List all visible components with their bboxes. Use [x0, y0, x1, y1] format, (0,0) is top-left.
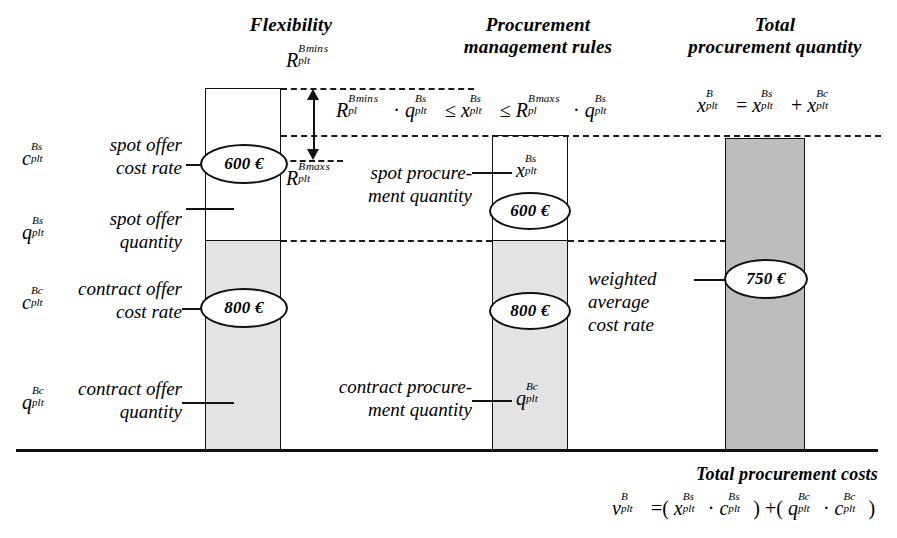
label-line: ment quantity — [332, 185, 472, 208]
equation-total-quantity: xBplt = xBsplt + xBcplt — [697, 95, 841, 115]
symbol-r-min: RB min splt — [286, 50, 343, 70]
symbol-q-contract-in-bar: qBcplt — [516, 388, 551, 408]
badge-weighted-average-cost-rate: 750 € — [724, 259, 808, 299]
leader-spot-offer-quantity — [186, 208, 234, 210]
heading-line: management rules — [408, 36, 668, 58]
heading-line: Flexibility — [196, 14, 386, 36]
label-spot-procurement-quantity: spot procure- ment quantity — [332, 162, 472, 208]
flexibility-range-arrow — [307, 89, 320, 160]
leader-contract-offer-quantity — [182, 402, 234, 404]
heading-line: procurement quantity — [660, 36, 890, 58]
baseline-axis — [16, 449, 878, 452]
label-line: cost rate — [62, 157, 182, 180]
guide-min-spot-level — [281, 135, 881, 137]
label-line: spot procure- — [332, 162, 472, 185]
badge-spot-cost-rate-procurement: 600 € — [489, 192, 571, 230]
label-spot-offer-cost-rate: spot offer cost rate — [62, 134, 182, 180]
label-line: spot offer — [62, 134, 182, 157]
column-heading-procurement-rules: Procurement management rules — [408, 14, 668, 59]
symbol-q-spot: qBsplt — [22, 222, 57, 242]
label-line: contract offer — [50, 378, 182, 401]
label-line: ment quantity — [318, 399, 472, 422]
label-line: average — [588, 291, 708, 314]
label-line: cost rate — [588, 314, 708, 337]
label-spot-offer-quantity: spot offer quantity — [62, 208, 182, 254]
label-line: contract offer — [50, 278, 182, 301]
guide-spot-contract-split-right — [568, 240, 726, 242]
equation-flexibility-rule: RB min spl· qBsplt ≤ xBsplt ≤ RB max spl… — [336, 100, 620, 120]
symbol-c-spot: cBsplt — [22, 148, 56, 168]
label-line: quantity — [50, 401, 182, 424]
label-contract-offer-quantity: contract offer quantity — [50, 378, 182, 424]
label-line: quantity — [62, 231, 182, 254]
figure-canvas: Flexibility Procurement management rules… — [0, 0, 897, 538]
label-weighted-average-cost-rate: weighted average cost rate — [588, 268, 708, 336]
heading-line: Procurement — [408, 14, 668, 36]
label-line: cost rate — [50, 301, 182, 324]
badge-contract-cost-rate-offer: 800 € — [200, 288, 288, 328]
guide-spot-contract-split — [281, 240, 492, 242]
badge-spot-cost-rate-offer: 600 € — [200, 144, 288, 184]
bar-offer-contract-segment — [205, 240, 281, 451]
leader-contract-procurement-quantity — [472, 400, 512, 402]
label-line: spot offer — [62, 208, 182, 231]
badge-contract-cost-rate-procurement: 800 € — [489, 292, 571, 330]
column-heading-total-quantity: Total procurement quantity — [660, 14, 890, 59]
bar-procurement-contract-segment — [492, 240, 568, 451]
footer-heading-total-costs: Total procurement costs — [500, 464, 878, 485]
label-contract-procurement-quantity: contract procure- ment quantity — [318, 376, 472, 422]
symbol-x-spot-in-bar: xBsplt — [516, 160, 550, 180]
column-heading-flexibility: Flexibility — [196, 14, 386, 36]
label-contract-offer-cost-rate: contract offer cost rate — [50, 278, 182, 324]
heading-line: Total — [660, 14, 890, 36]
equation-total-costs: vBplt =( xBsplt· cBsplt) +( qBcplt· cBcp… — [612, 498, 875, 518]
leader-spot-procurement-quantity — [472, 172, 512, 174]
label-line: weighted — [588, 268, 708, 291]
label-line: contract procure- — [318, 376, 472, 399]
